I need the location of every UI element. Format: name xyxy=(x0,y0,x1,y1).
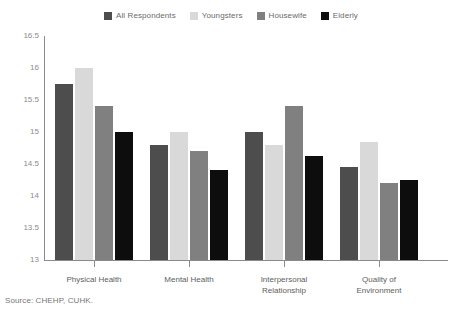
legend-item-label: All Respondents xyxy=(116,11,176,20)
bar[interactable] xyxy=(360,142,378,260)
bar-group xyxy=(340,36,420,260)
legend-item-label: Youngsters xyxy=(202,11,243,20)
legend-item-label: Elderly xyxy=(333,11,358,20)
bar[interactable] xyxy=(75,68,93,260)
y-axis-tick-label: 15 xyxy=(30,128,39,136)
y-axis-tick-label: 16.5 xyxy=(23,32,39,40)
legend-item-label: Housewife xyxy=(269,11,307,20)
source-note: Source: CHEHP, CUHK. xyxy=(5,296,93,306)
chart-figure: All RespondentsYoungstersHousewifeElderl… xyxy=(0,0,462,316)
x-axis-tick-mark xyxy=(379,260,380,267)
bar[interactable] xyxy=(210,170,228,260)
x-axis-tick-label: Quality of Environment xyxy=(324,274,434,296)
legend-item[interactable]: Youngsters xyxy=(190,11,243,20)
legend-item[interactable]: All Respondents xyxy=(104,11,176,20)
bar[interactable] xyxy=(55,84,73,260)
bar[interactable] xyxy=(380,183,398,260)
y-axis-tick-label: 13 xyxy=(30,256,39,264)
chart-legend: All RespondentsYoungstersHousewifeElderl… xyxy=(0,11,462,20)
bar[interactable] xyxy=(150,145,168,260)
bar-group xyxy=(245,36,325,260)
bar[interactable] xyxy=(245,132,263,260)
y-axis-tick-label: 16 xyxy=(30,64,39,72)
legend-item[interactable]: Elderly xyxy=(321,11,358,20)
y-axis-tick-label: 15.5 xyxy=(23,96,39,104)
x-axis-tick-label: Physical Health xyxy=(39,274,149,285)
x-axis-tick-mark xyxy=(94,260,95,267)
bar[interactable] xyxy=(285,106,303,260)
x-axis-tick-label: Interpersonal Relationship xyxy=(229,274,339,296)
plot-area: 1313.51414.51515.51616.5Physical HealthM… xyxy=(44,36,448,260)
bar[interactable] xyxy=(305,156,323,260)
legend-item[interactable]: Housewife xyxy=(257,11,307,20)
bar[interactable] xyxy=(400,180,418,260)
x-axis-tick-label: Mental Health xyxy=(134,274,244,285)
legend-swatch-icon xyxy=(104,12,112,20)
x-axis-tick-mark xyxy=(284,260,285,267)
bar[interactable] xyxy=(115,132,133,260)
legend-swatch-icon xyxy=(321,12,329,20)
legend-swatch-icon xyxy=(190,12,198,20)
bar[interactable] xyxy=(340,167,358,260)
x-axis-line xyxy=(44,260,448,261)
y-axis-tick-label: 13.5 xyxy=(23,224,39,232)
bar-group xyxy=(150,36,230,260)
top-margin-strip xyxy=(0,0,462,4)
bar[interactable] xyxy=(95,106,113,260)
y-axis-line xyxy=(44,36,45,260)
bar[interactable] xyxy=(265,145,283,260)
legend-swatch-icon xyxy=(257,12,265,20)
bar-group xyxy=(55,36,135,260)
y-axis-tick-label: 14.5 xyxy=(23,160,39,168)
x-axis-tick-mark xyxy=(189,260,190,267)
y-axis-tick-label: 14 xyxy=(30,192,39,200)
bar[interactable] xyxy=(170,132,188,260)
bar[interactable] xyxy=(190,151,208,260)
